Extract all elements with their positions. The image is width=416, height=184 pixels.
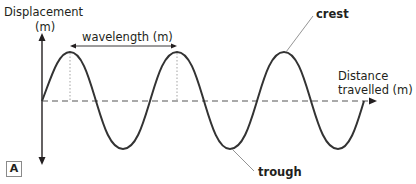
y-axis-label-line1: Displacement: [4, 6, 83, 19]
y-axis-arrow-up-icon: [39, 33, 46, 41]
y-axis-arrow-down-icon: [39, 157, 46, 165]
x-axis-label-line1: Distance: [338, 70, 413, 83]
x-axis-label: Distance travelled (m): [338, 70, 413, 97]
wavelength-arrow: [70, 44, 177, 49]
x-axis: [42, 98, 377, 105]
crest-leader-line: [286, 16, 313, 52]
y-axis-label-line2: (m): [4, 21, 83, 34]
wavelength-label: wavelength (m): [82, 31, 173, 44]
y-axis-label: Displacement (m): [4, 6, 83, 34]
crest-label: crest: [316, 8, 349, 21]
trough-label: trough: [258, 166, 302, 179]
figure-tag: A: [6, 161, 22, 177]
trough-leader-line: [232, 149, 254, 171]
x-axis-label-line2: travelled (m): [338, 84, 413, 97]
x-axis-arrow-icon: [369, 98, 377, 105]
